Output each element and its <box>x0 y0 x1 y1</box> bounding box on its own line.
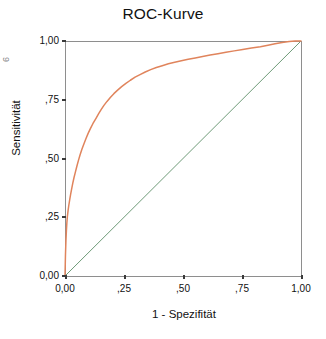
roc-chart: ROC-Kurve 6 Sensitivität 1 - Spezifität … <box>0 0 326 339</box>
reference-diagonal-line <box>65 41 301 276</box>
chart-title: ROC-Kurve <box>0 5 326 23</box>
y-tick-label: ,75 <box>17 94 59 105</box>
x-tick-label: ,75 <box>221 283 263 294</box>
y-tick-mark <box>62 40 66 42</box>
x-tick-label: ,50 <box>162 283 204 294</box>
x-tick-mark <box>65 275 67 279</box>
y-tick-mark <box>62 99 66 101</box>
curve-canvas <box>65 41 302 277</box>
x-tick-label: ,25 <box>103 283 145 294</box>
plot-area <box>65 41 302 277</box>
x-tick-mark <box>301 275 303 279</box>
edge-artifact-glyph: 6 <box>1 57 11 62</box>
y-tick-label: ,25 <box>17 211 59 222</box>
x-tick-mark <box>242 275 244 279</box>
y-tick-label: 1,00 <box>17 35 59 46</box>
x-tick-mark <box>124 275 126 279</box>
x-axis-title: 1 - Spezifität <box>65 308 303 320</box>
y-tick-mark <box>62 216 66 218</box>
y-tick-label: ,50 <box>17 153 59 164</box>
y-axis-title: Sensitivität <box>10 68 22 188</box>
x-tick-label: 0,00 <box>44 283 86 294</box>
y-tick-label: 0,00 <box>17 270 59 281</box>
x-tick-mark <box>183 275 185 279</box>
y-tick-mark <box>62 158 66 160</box>
x-tick-label: 1,00 <box>280 283 322 294</box>
